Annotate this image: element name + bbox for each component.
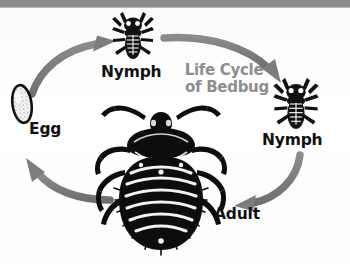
stage-label-adult: Adult bbox=[214, 205, 260, 223]
stage-label-nymph-right: Nymph bbox=[262, 131, 322, 149]
stage-label-nymph-top: Nymph bbox=[101, 63, 161, 81]
bedbug-life-cycle-diagram: Nymph Nymph Egg Adult Life Cycle of Bedb… bbox=[0, 0, 350, 264]
diagram-title: Life Cycle of Bedbug bbox=[170, 62, 278, 96]
diagram-title-line1: Life Cycle bbox=[170, 62, 278, 79]
diagram-title-line2: of Bedbug bbox=[170, 79, 278, 96]
stage-label-egg: Egg bbox=[29, 120, 61, 138]
